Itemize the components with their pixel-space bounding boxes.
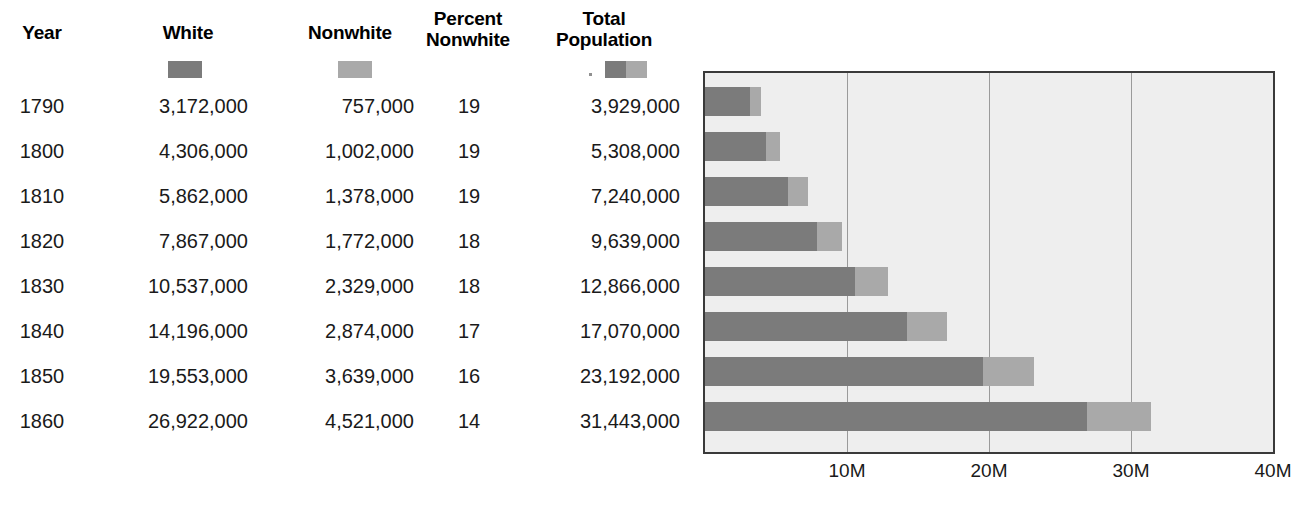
table-row: 184014,196,0002,874,0001717,070,000: [0, 309, 690, 354]
legend-swatch-white: [168, 61, 202, 78]
table-cell-nonwhite: 1,002,000: [268, 129, 414, 174]
bar-segment-white: [705, 402, 1087, 431]
table-cell-year: 1850: [4, 354, 80, 399]
table-row: 18004,306,0001,002,000195,308,000: [0, 129, 690, 174]
bar-row: [705, 169, 1277, 214]
bar-segment-nonwhite: [750, 87, 761, 116]
table-cell-white: 4,306,000: [108, 129, 248, 174]
bar-segment-nonwhite: [766, 132, 780, 161]
table-row: 18207,867,0001,772,000189,639,000: [0, 219, 690, 264]
table-cell-white: 7,867,000: [108, 219, 248, 264]
x-tick-label: 40M: [1255, 460, 1292, 482]
bar-segment-nonwhite: [983, 357, 1035, 386]
table-cell-percent: 14: [414, 399, 524, 444]
bar-segment-nonwhite: [1087, 402, 1151, 431]
column-header-total-population: Total Population: [528, 8, 680, 50]
table-cell-percent: 17: [414, 309, 524, 354]
table-cell-white: 10,537,000: [108, 264, 248, 309]
bar-segment-white: [705, 312, 907, 341]
table-cell-year: 1840: [4, 309, 80, 354]
column-header-white: White: [128, 22, 248, 43]
table-cell-year: 1790: [4, 84, 80, 129]
table-cell-percent: 16: [414, 354, 524, 399]
table-cell-nonwhite: 3,639,000: [268, 354, 414, 399]
bar-segment-white: [705, 267, 855, 296]
table-cell-white: 14,196,000: [108, 309, 248, 354]
table-cell-total: 5,308,000: [524, 129, 680, 174]
bar-row: [705, 394, 1277, 439]
table-cell-percent: 18: [414, 264, 524, 309]
table-cell-total: 17,070,000: [524, 309, 680, 354]
bar-row: [705, 259, 1277, 304]
bar-row: [705, 124, 1277, 169]
bar-segment-nonwhite: [907, 312, 948, 341]
column-header-percent-nonwhite: Percent Nonwhite: [404, 8, 532, 50]
x-axis-tick-labels: 10M20M30M40M: [703, 460, 1303, 490]
legend-swatch-total-nonwhite-half: [626, 61, 647, 78]
table-cell-nonwhite: 1,772,000: [268, 219, 414, 264]
table-row: 183010,537,0002,329,0001812,866,000: [0, 264, 690, 309]
table-cell-percent: 19: [414, 129, 524, 174]
bar-row: [705, 214, 1277, 259]
bar-segment-white: [705, 132, 766, 161]
table-cell-nonwhite: 2,329,000: [268, 264, 414, 309]
table-cell-white: 5,862,000: [108, 174, 248, 219]
bar-segment-white: [705, 177, 788, 206]
stacked-bar-chart: [703, 71, 1277, 456]
bar-segment-white: [705, 222, 817, 251]
table-cell-year: 1820: [4, 219, 80, 264]
x-tick-label: 20M: [971, 460, 1008, 482]
column-header-year: Year: [4, 22, 80, 43]
table-cell-nonwhite: 4,521,000: [268, 399, 414, 444]
population-table-and-chart: Year White Nonwhite Percent Nonwhite Tot…: [0, 0, 1304, 518]
legend-swatch-total-white-half: [605, 61, 626, 78]
column-header-nonwhite: Nonwhite: [286, 22, 414, 43]
table-row: 185019,553,0003,639,0001623,192,000: [0, 354, 690, 399]
table-cell-year: 1810: [4, 174, 80, 219]
bar-row: [705, 304, 1277, 349]
plot-area: [703, 71, 1275, 454]
table-cell-percent: 19: [414, 84, 524, 129]
table-cell-nonwhite: 2,874,000: [268, 309, 414, 354]
table-cell-white: 26,922,000: [108, 399, 248, 444]
table-cell-year: 1860: [4, 399, 80, 444]
x-tick-label: 30M: [1113, 460, 1150, 482]
table-row: 18105,862,0001,378,000197,240,000: [0, 174, 690, 219]
table-cell-total: 9,639,000: [524, 219, 680, 264]
bar-segment-white: [705, 87, 750, 116]
bar-segment-white: [705, 357, 983, 386]
table-cell-white: 3,172,000: [108, 84, 248, 129]
table-cell-white: 19,553,000: [108, 354, 248, 399]
table-row: 17903,172,000757,000193,929,000: [0, 84, 690, 129]
legend-swatch-nonwhite: [338, 61, 372, 78]
table-cell-total: 3,929,000: [524, 84, 680, 129]
table-cell-nonwhite: 1,378,000: [268, 174, 414, 219]
table-cell-percent: 19: [414, 174, 524, 219]
legend-swatch-total-population: [605, 61, 647, 78]
table-cell-year: 1800: [4, 129, 80, 174]
bar-row: [705, 349, 1277, 394]
table-cell-total: 7,240,000: [524, 174, 680, 219]
table-cell-total: 12,866,000: [524, 264, 680, 309]
bar-segment-nonwhite: [855, 267, 888, 296]
bar-row: [705, 79, 1277, 124]
table-cell-percent: 18: [414, 219, 524, 264]
bar-segment-nonwhite: [817, 222, 842, 251]
data-table: Year White Nonwhite Percent Nonwhite Tot…: [0, 0, 690, 518]
legend-dot-marker: [589, 73, 592, 76]
table-row: 186026,922,0004,521,0001431,443,000: [0, 399, 690, 444]
table-cell-nonwhite: 757,000: [268, 84, 414, 129]
table-cell-total: 23,192,000: [524, 354, 680, 399]
table-cell-total: 31,443,000: [524, 399, 680, 444]
bar-segment-nonwhite: [788, 177, 808, 206]
table-cell-year: 1830: [4, 264, 80, 309]
x-tick-label: 10M: [829, 460, 866, 482]
